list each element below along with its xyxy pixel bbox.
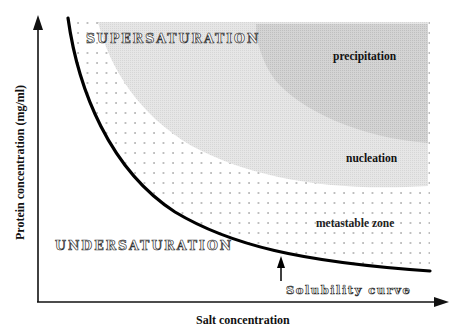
metastable-zone-label: metastable zone: [316, 217, 394, 229]
undersaturation-label: UNDERSATURATION: [55, 238, 233, 253]
precipitation-label: precipitation: [333, 50, 396, 62]
solubility-pointer-arrow-icon: [277, 256, 285, 281]
solubility-curve-label: Solubility curve: [286, 283, 411, 297]
nucleation-label: nucleation: [346, 152, 397, 164]
x-axis-label: Salt concentration: [196, 313, 290, 328]
x-axis-arrow-icon: [434, 297, 449, 307]
y-axis: [33, 15, 43, 302]
x-axis: [37, 297, 449, 307]
y-axis-label: Protein concentration (mg/ml): [13, 85, 28, 240]
supersaturation-label: SUPERSATURATION: [86, 31, 260, 46]
y-axis-arrow-icon: [33, 15, 43, 30]
